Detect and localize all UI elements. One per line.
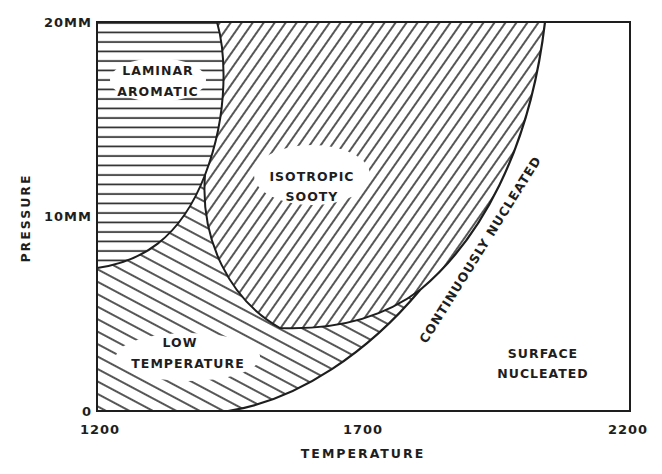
regions-layer [97,22,545,411]
label-isotropic-line1: ISOTROPIC [269,169,354,184]
label-low-line1: LOW [163,335,198,350]
label-laminar-line1: LAMINAR [122,63,194,78]
x-tick-2200: 2200 [608,422,648,437]
label-isotropic-line2: SOOTY [286,189,339,204]
label-surface-line2: NUCLEATED [497,366,588,381]
label-low-line2: TEMPERATURE [131,356,244,371]
y-tick-10mm: 10MM [44,209,92,224]
label-laminar-line2: AROMATIC [117,84,198,99]
label-surface-line1: SURFACE [508,346,578,361]
x-tick-1700: 1700 [343,422,383,437]
x-axis-label: TEMPERATURE [301,446,425,461]
x-tick-1200: 1200 [80,422,120,437]
y-tick-20mm: 20MM [44,15,92,30]
phase-diagram: 20MM 10MM 0 1200 1700 2200 TEMPERATURE P… [0,0,662,474]
y-axis-label: PRESSURE [18,173,33,262]
y-tick-0: 0 [82,404,92,419]
